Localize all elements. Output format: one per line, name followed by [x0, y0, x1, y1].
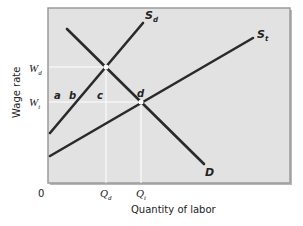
x-tick-qt: Qt [136, 187, 147, 202]
annotation-c: c [97, 90, 103, 101]
equilibrium-point-t [139, 100, 144, 105]
d-label: D [205, 166, 214, 179]
origin-label: 0 [38, 188, 44, 199]
y-tick-wt: Wt [29, 96, 41, 111]
annotation-a: a [54, 90, 61, 101]
y-axis-title: Wage rate [11, 67, 22, 118]
labor-market-chart: Sd St D a b c d Wd Wt 0 Qd Qt Quantity o… [0, 0, 303, 226]
annotation-d: d [137, 88, 145, 99]
plot-area [48, 8, 290, 183]
x-tick-qd: Qd [100, 187, 112, 202]
equilibrium-point-d [104, 65, 109, 70]
annotation-b: b [69, 90, 76, 101]
y-tick-wd: Wd [29, 62, 42, 77]
x-axis-title: Quantity of labor [131, 204, 217, 215]
